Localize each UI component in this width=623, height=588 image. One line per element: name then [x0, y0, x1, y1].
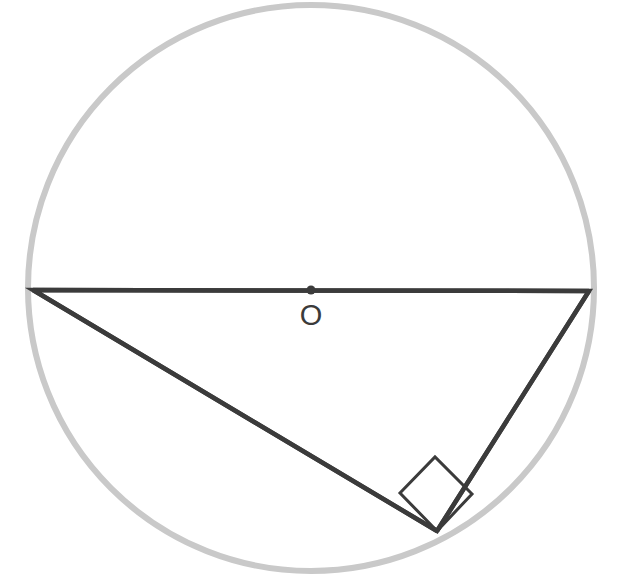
geometry-figure: O	[0, 0, 623, 588]
center-point-label: O	[300, 301, 323, 330]
center-point-o	[307, 286, 316, 295]
long-leg	[33, 290, 437, 531]
geometry-canvas	[0, 0, 623, 588]
